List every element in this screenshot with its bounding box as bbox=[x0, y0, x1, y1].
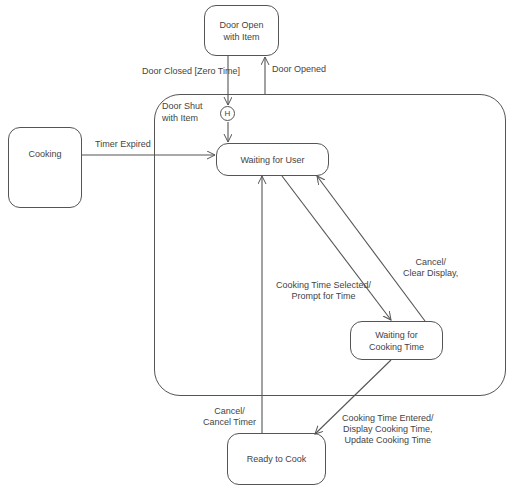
transition-label-door-closed: Door Closed [Zero Time] bbox=[142, 66, 240, 77]
transition-label-cooking-time-entered: Cooking Time Entered/ Display Cooking Ti… bbox=[342, 413, 434, 446]
transition-label-door-opened: Door Opened bbox=[272, 64, 326, 75]
transition-label-cancel-clear-display: Cancel/ Clear Display, bbox=[403, 257, 458, 279]
transition-label-timer-expired: Timer Expired bbox=[95, 139, 151, 150]
state-label: Waiting for User bbox=[240, 154, 304, 166]
transition-label-cancel-timer: Cancel/ Cancel Timer bbox=[203, 406, 256, 428]
transition-label-cooking-time-selected: Cooking Time Selected/ Prompt for Time bbox=[276, 280, 371, 302]
state-label: Waiting for Cooking Time bbox=[359, 329, 434, 353]
state-waiting-for-user[interactable]: Waiting for User bbox=[216, 143, 329, 176]
state-label: Ready to Cook bbox=[247, 453, 307, 465]
state-cooking[interactable]: Cooking bbox=[8, 127, 82, 208]
state-label: Cooking bbox=[28, 148, 61, 160]
state-door-open-with-item[interactable]: Door Open with Item bbox=[204, 5, 279, 56]
history-state-icon[interactable]: H bbox=[220, 106, 235, 121]
state-ready-to-cook[interactable]: Ready to Cook bbox=[227, 433, 326, 485]
state-waiting-for-cooking-time[interactable]: Waiting for Cooking Time bbox=[350, 321, 443, 360]
transition-edges bbox=[0, 0, 513, 492]
state-label: Door Open with Item bbox=[211, 19, 272, 43]
history-symbol: H bbox=[225, 109, 231, 118]
